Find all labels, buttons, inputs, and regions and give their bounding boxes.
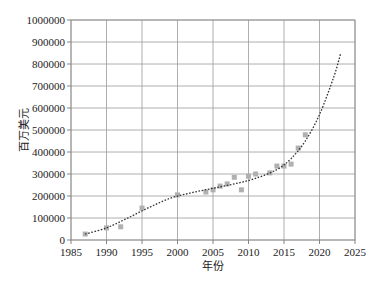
x-tick-label: 2010 [238,246,261,258]
x-tick-label: 1985 [60,246,83,258]
y-tick-label: 0 [60,234,66,246]
y-axis-label: 百万美元 [18,108,31,152]
x-axis-label: 年份 [202,259,224,273]
y-tick-label: 100000 [32,212,66,224]
data-point [296,146,301,151]
data-point [118,224,123,229]
data-point [246,174,251,179]
x-tick-label: 2020 [309,246,332,258]
x-tick-label: 1995 [131,246,154,258]
data-point [289,162,294,167]
x-tick-label: 2015 [273,246,296,258]
y-tick-label: 200000 [32,190,66,202]
y-axis-ticks: 0100000200000300000400000500000600000700… [27,14,66,246]
y-tick-label: 600000 [32,102,66,114]
grid [67,20,355,244]
data-point [303,132,308,137]
x-tick-label: 2025 [344,246,367,258]
x-tick-label: 1990 [96,246,119,258]
y-tick-label: 400000 [32,146,66,158]
scatter-points [83,132,308,236]
x-tick-label: 2000 [167,246,190,258]
data-point [140,206,145,211]
data-point [239,187,244,192]
x-axis-ticks: 198519901995200020052010201520202025 [60,246,367,258]
y-tick-label: 700000 [32,80,66,92]
data-point [253,172,258,177]
y-tick-label: 500000 [32,124,66,136]
data-point [274,164,279,169]
y-tick-label: 300000 [32,168,66,180]
x-tick-label: 2005 [202,246,225,258]
y-tick-label: 1000000 [27,14,66,26]
y-tick-label: 800000 [32,58,66,70]
data-point [232,175,237,180]
chart: 0100000200000300000400000500000600000700… [0,0,381,283]
y-tick-label: 900000 [32,36,66,48]
